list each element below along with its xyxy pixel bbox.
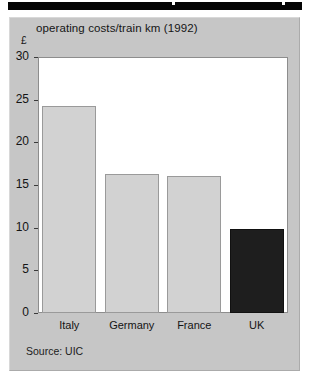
y-axis-tick-mark <box>34 313 38 314</box>
y-axis-tick-label: 5 <box>5 263 29 275</box>
source-note: Source: UIC <box>26 345 83 357</box>
top-rule-nick-right <box>282 2 285 5</box>
y-axis-tick-label: 10 <box>5 221 29 233</box>
bar-italy <box>42 106 96 313</box>
top-rule-decoration <box>8 2 302 10</box>
chart-title: operating costs/train km (1992) <box>36 22 198 34</box>
bar-france <box>167 176 221 313</box>
y-axis-unit-label: £ <box>21 35 27 46</box>
y-axis-tick-label: 25 <box>5 93 29 105</box>
x-axis-tick-label: France <box>163 319 226 331</box>
x-axis-tick-label: UK <box>226 319 289 331</box>
bar-germany <box>105 174 159 313</box>
x-axis-tick-label: Italy <box>38 319 101 331</box>
y-axis-tick-label: 15 <box>5 178 29 190</box>
y-axis-tick-label: 20 <box>5 135 29 147</box>
x-axis-tick-label: Germany <box>101 319 164 331</box>
bar-uk <box>230 229 284 313</box>
top-rule-nick-left <box>172 2 175 5</box>
y-axis-tick-label: 30 <box>5 50 29 62</box>
y-axis-tick-label: 0 <box>5 306 29 318</box>
chart-figure: operating costs/train km (1992) £ 051015… <box>0 0 309 384</box>
